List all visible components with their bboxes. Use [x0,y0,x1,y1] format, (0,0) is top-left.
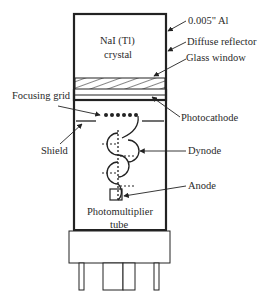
shield-label: Shield [41,146,68,157]
photocathode-label: Photocathode [181,113,238,124]
pmt-label-line1: Photomultiplier [87,207,153,218]
diffuse-reflector-label: Diffuse reflector [187,37,256,48]
crystal-label-line2: crystal [104,50,132,61]
focusing-grid [104,113,138,117]
tube-base [69,231,170,263]
pmt-label-line2: tube [110,220,128,231]
glass-window [75,78,165,89]
base-pins [79,263,159,290]
crystal-label-line1: NaI (Tl) [100,36,135,47]
al-housing-label: 0.005" Al [188,16,228,27]
anode-label: Anode [188,181,216,192]
dynode-label: Dynode [188,146,221,157]
glass-window-label: Glass window [186,53,246,64]
dynode-chain [107,133,139,200]
focusing-grid-label: Focusing grid [12,91,70,102]
